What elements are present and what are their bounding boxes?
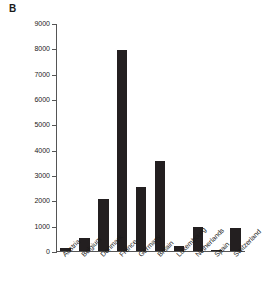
y-axis-tick-label: 1000 bbox=[6, 223, 50, 231]
y-axis-tick-label: 7000 bbox=[6, 71, 50, 79]
y-axis-tick bbox=[52, 125, 56, 126]
y-axis-tick bbox=[52, 75, 56, 76]
y-axis-tick-label: 6000 bbox=[6, 96, 50, 104]
y-axis-tick-label: 5000 bbox=[6, 121, 50, 129]
x-axis-tick-labels: AustriaBelgiumDenmarkFranceGermanyBritai… bbox=[56, 253, 262, 305]
y-axis-line bbox=[56, 24, 57, 253]
y-axis-tick-label: 4000 bbox=[6, 147, 50, 155]
plot-area bbox=[56, 24, 245, 252]
bar bbox=[117, 50, 128, 251]
y-axis-tick-label: 0 bbox=[6, 248, 50, 256]
y-axis-tick bbox=[52, 100, 56, 101]
y-axis-tick bbox=[52, 176, 56, 177]
y-axis-tick bbox=[52, 227, 56, 228]
y-axis-tick bbox=[52, 151, 56, 152]
y-axis-tick-labels: 0100020003000400050006000700080009000 bbox=[6, 24, 50, 253]
y-axis-tick-label: 8000 bbox=[6, 45, 50, 53]
y-axis-tick-label: 2000 bbox=[6, 197, 50, 205]
y-axis-tick-label: 3000 bbox=[6, 172, 50, 180]
y-axis-tick-label: 9000 bbox=[6, 20, 50, 28]
figure-panel-b: B Insured losses (Euro millions) 0100020… bbox=[0, 0, 262, 305]
y-axis-tick bbox=[52, 49, 56, 50]
y-axis-tick bbox=[52, 24, 56, 25]
y-axis-tick bbox=[52, 201, 56, 202]
